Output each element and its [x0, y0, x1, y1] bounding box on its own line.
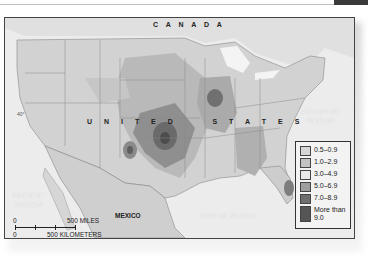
legend-item: 3.0–4.9 — [300, 170, 337, 180]
legend-swatch — [300, 158, 311, 168]
legend-swatch — [300, 182, 311, 192]
label-canada: C A N A D A — [153, 21, 225, 28]
legend-swatch — [300, 146, 311, 156]
label-pacific-ocean: PACIFIC OCEAN — [13, 191, 45, 209]
label-latitude-40: 40° — [17, 111, 25, 117]
map-legend: 0.5–0.9 1.0–2.9 3.0–4.9 5.0–6.9 7.0–8.9 … — [295, 141, 351, 229]
scale-km-label: 500 KILOMETERS — [47, 231, 102, 238]
legend-item: More than 9.0 — [300, 206, 348, 222]
legend-item: 0.5–0.9 — [300, 146, 337, 156]
label-atlantic-ocean: ATLANTIC OCEAN — [301, 107, 340, 125]
legend-swatch — [300, 170, 311, 180]
scale-miles-zero: 0 — [13, 217, 17, 224]
legend-swatch — [300, 194, 311, 204]
scale-km-zero: 0 — [13, 231, 17, 238]
legend-item: 7.0–8.9 — [300, 194, 337, 204]
legend-item: 5.0–6.9 — [300, 182, 337, 192]
page-tab — [334, 0, 368, 5]
map-frame: C A N A D A U N I T E D S T A T E S MEXI… — [4, 17, 355, 239]
label-gulf-of-mexico: Gulf of Mexico — [201, 211, 257, 220]
label-united-states: U N I T E D S T A T E S — [87, 118, 304, 125]
top-rule — [0, 4, 335, 5]
legend-item: 1.0–2.9 — [300, 158, 337, 168]
legend-swatch — [300, 206, 311, 222]
label-mexico: MEXICO — [115, 212, 141, 219]
scale-miles-label: 500 MILES — [67, 217, 99, 224]
